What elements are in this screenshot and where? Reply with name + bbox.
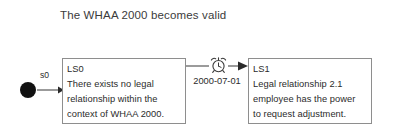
state-ls0-line-3: context of WHAA 2000. [67, 107, 183, 122]
transition-label-date: 2000-07-01 [186, 76, 248, 86]
diagram-canvas: The WHAA 2000 becomes valid [0, 0, 393, 136]
state-ls0-id: LS0 [67, 62, 183, 77]
state-ls0-line-1: There exists no legal [67, 77, 183, 92]
state-ls1-line-3: to request adjustment. [253, 107, 369, 122]
initial-state-marker [20, 82, 36, 98]
state-ls1-line-2: employee has the power [253, 92, 369, 107]
initial-transition-arrow [37, 86, 64, 93]
state-box-ls0[interactable]: LS0 There exists no legal relationship w… [62, 58, 186, 124]
alarm-clock-icon [211, 58, 225, 72]
state-ls1-line-1: Legal relationship 2.1 [253, 77, 369, 92]
state-ls0-line-2: relationship within the [67, 92, 183, 107]
state-ls0-text: LS0 There exists no legal relationship w… [67, 62, 183, 122]
state-ls1-id: LS1 [253, 62, 369, 77]
state-box-ls1[interactable]: LS1 Legal relationship 2.1 employee has … [248, 58, 372, 124]
initial-state-label: s0 [40, 70, 49, 80]
state-ls1-text: LS1 Legal relationship 2.1 employee has … [253, 62, 369, 122]
